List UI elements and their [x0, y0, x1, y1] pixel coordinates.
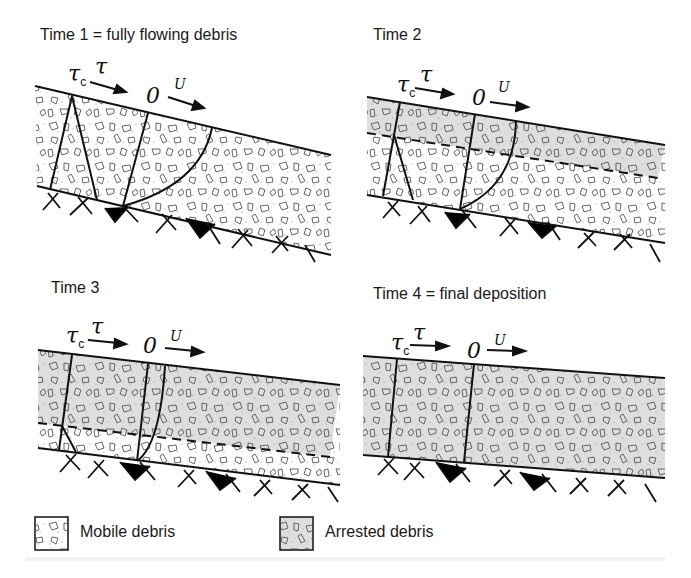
- debris-flow-diagram: [0, 0, 691, 578]
- velocity-label-time2: U: [498, 79, 510, 95]
- panel-time3: [30, 340, 350, 502]
- tau-label-time1: τ: [95, 54, 107, 79]
- legend-label-arrested: Arrested debris: [325, 523, 434, 541]
- panel-time2: [360, 90, 670, 262]
- tau-label-time2: τ: [420, 62, 432, 87]
- tau-c-label-time4: τc: [391, 330, 409, 358]
- divider: [25, 557, 665, 561]
- tau-c-label-time2: τc: [397, 72, 415, 100]
- panel-title-time2: Time 2: [373, 26, 421, 44]
- tau-label-time4: τ: [413, 320, 425, 345]
- panel-title-time4: Time 4 = final deposition: [373, 285, 546, 303]
- velocity-label-time1: U: [174, 76, 186, 92]
- legend-label-mobile: Mobile debris: [80, 523, 175, 541]
- legend-swatch-mobile: [35, 517, 68, 550]
- velocity-label-time4: U: [494, 332, 506, 348]
- zero-label-time2: 0: [472, 85, 486, 110]
- zero-label-time3: 0: [143, 333, 157, 358]
- tau-label-time3: τ: [91, 314, 103, 339]
- zero-label-time4: 0: [467, 338, 481, 363]
- velocity-label-time3: U: [170, 328, 182, 344]
- panel-title-time1: Time 1 = fully flowing debris: [40, 26, 237, 44]
- panel-time1: [30, 80, 340, 262]
- tau-c-label-time3: τc: [66, 323, 84, 351]
- panel-time4: [355, 350, 670, 502]
- tau-c-label-time1: τc: [68, 61, 86, 89]
- panel-title-time3: Time 3: [51, 279, 99, 297]
- legend-swatch-arrested: [280, 517, 313, 550]
- zero-label-time1: 0: [146, 83, 160, 108]
